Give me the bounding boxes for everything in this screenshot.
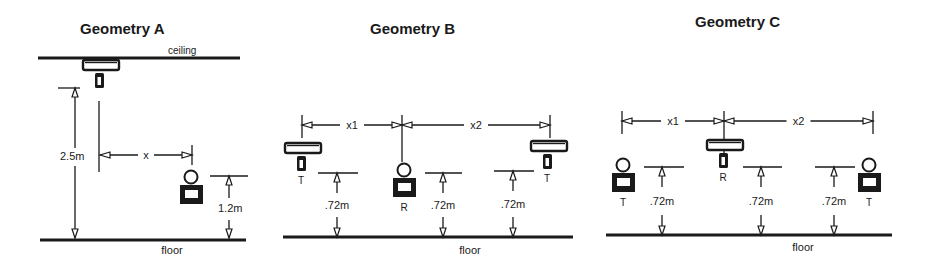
arrow-up-icon	[72, 88, 78, 97]
height-label: 2.5m	[60, 150, 84, 162]
arrow-right-icon	[863, 118, 873, 124]
unit-window	[617, 178, 630, 186]
unit-dome	[185, 171, 198, 184]
unit-housing	[83, 60, 119, 70]
floor-unit-icon	[393, 164, 416, 198]
unit-role-label: T	[866, 197, 872, 208]
unit-window	[185, 190, 198, 198]
arrow-right-icon	[182, 152, 192, 158]
panel-geometry-c: Geometry Cfloorx1x2TRT.72m.72m.72m	[606, 13, 892, 253]
unit-housing	[531, 141, 567, 151]
floor-unit-icon	[180, 171, 203, 205]
arrow-down-icon	[72, 229, 78, 238]
height-label: 1.2m	[218, 202, 242, 214]
arrow-down-icon	[226, 229, 232, 238]
panel-geometry-b: Geometry Bfloorx1x2TRT.72m.72m.72m	[283, 20, 573, 256]
ceiling-unit-icon	[707, 140, 743, 168]
panel-title: Geometry C	[695, 13, 780, 30]
unit-window	[863, 178, 876, 186]
dim-label: x1	[667, 115, 679, 127]
height-label: .72m	[325, 199, 349, 211]
unit-role-label: T	[298, 175, 304, 186]
height-label: .72m	[650, 195, 674, 207]
arrow-left-icon	[622, 118, 632, 124]
unit-dome	[863, 159, 876, 172]
ceiling-label: ceiling	[168, 45, 196, 56]
unit-window	[300, 160, 304, 168]
unit-window	[398, 183, 411, 191]
height-label: .72m	[431, 199, 455, 211]
arrow-left-icon	[302, 122, 312, 128]
ceiling-unit-icon	[83, 60, 119, 88]
dim-label: x	[143, 149, 149, 161]
panel-title: Geometry B	[370, 20, 455, 37]
dim-label: x1	[346, 119, 358, 131]
ceiling-unit-icon	[531, 141, 567, 169]
unit-window	[546, 158, 550, 166]
panel-title: Geometry A	[80, 20, 165, 37]
arrow-left-icon	[402, 122, 412, 128]
unit-housing	[707, 140, 743, 150]
unit-housing	[285, 143, 321, 153]
floor-unit-icon	[858, 159, 881, 193]
unit-window	[722, 157, 726, 165]
unit-role-label: R	[719, 172, 726, 183]
unit-dome	[617, 159, 630, 172]
height-label: .72m	[822, 195, 846, 207]
unit-window	[98, 77, 102, 85]
arrow-up-icon	[226, 176, 232, 185]
arrow-left-icon	[100, 152, 110, 158]
arrow-left-icon	[724, 118, 734, 124]
height-label: .72m	[749, 195, 773, 207]
arrow-up-icon	[758, 167, 764, 176]
panel-geometry-a: Geometry Afloorceiling2.5mx1.2m	[38, 20, 248, 256]
floor-label: floor	[161, 244, 183, 256]
arrow-up-icon	[659, 167, 665, 176]
height-label: .72m	[501, 198, 525, 210]
arrow-up-icon	[334, 173, 340, 182]
unit-role-label: T	[544, 173, 550, 184]
floor-unit-icon	[612, 159, 635, 193]
unit-dome	[398, 164, 411, 177]
geometry-diagrams: Geometry Afloorceiling2.5mx1.2mGeometry …	[0, 0, 928, 266]
dim-label: x2	[793, 115, 805, 127]
floor-label: floor	[459, 244, 481, 256]
dim-label: x2	[470, 119, 482, 131]
ceiling-unit-icon	[285, 143, 321, 171]
floor-label: floor	[792, 241, 814, 253]
arrow-up-icon	[440, 173, 446, 182]
arrow-right-icon	[540, 122, 550, 128]
arrow-up-icon	[831, 167, 837, 176]
unit-role-label: T	[620, 197, 626, 208]
unit-role-label: R	[400, 202, 407, 213]
arrow-up-icon	[510, 171, 516, 180]
